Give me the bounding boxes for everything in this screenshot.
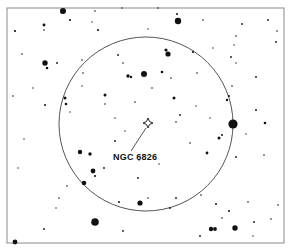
star [82, 72, 84, 74]
star [209, 117, 210, 118]
star [235, 35, 237, 37]
star [226, 99, 228, 101]
star [43, 29, 45, 31]
star [21, 53, 23, 55]
star [126, 74, 129, 77]
star [233, 44, 234, 45]
star [209, 227, 213, 231]
star [64, 97, 67, 100]
star [263, 154, 265, 156]
star [43, 24, 46, 27]
star [13, 240, 18, 245]
star [175, 121, 177, 123]
star [91, 218, 99, 226]
star [170, 77, 172, 79]
star [91, 169, 96, 174]
star [151, 87, 153, 89]
star [241, 23, 243, 25]
star [121, 7, 122, 8]
star [97, 29, 99, 31]
star [94, 175, 96, 177]
star [215, 203, 217, 205]
star [264, 122, 267, 125]
star [134, 101, 136, 103]
star [88, 152, 91, 155]
star [175, 18, 181, 24]
star [232, 225, 237, 230]
object-label-ngc6826: NGC 6826 [113, 153, 157, 162]
star [130, 76, 132, 78]
star [117, 54, 119, 56]
star [165, 51, 170, 56]
star [81, 59, 83, 61]
star [192, 51, 194, 53]
star [147, 197, 149, 199]
star [157, 7, 159, 9]
star [267, 19, 269, 21]
star [173, 97, 176, 100]
star [91, 21, 92, 22]
star [23, 138, 24, 139]
star [255, 76, 257, 78]
star [228, 95, 230, 97]
star [252, 235, 253, 236]
star [231, 85, 233, 87]
star [94, 10, 96, 12]
star [164, 48, 167, 51]
star [200, 194, 202, 196]
star [199, 235, 201, 237]
star [175, 197, 177, 199]
star [137, 200, 142, 205]
star [58, 197, 60, 199]
star [275, 41, 277, 43]
star [270, 218, 272, 220]
star [176, 13, 178, 15]
star [12, 95, 14, 97]
star [255, 109, 257, 111]
star [196, 72, 198, 74]
star [14, 30, 16, 32]
star [247, 201, 249, 203]
star [235, 156, 237, 158]
star [66, 185, 68, 187]
star [104, 94, 107, 97]
star [104, 103, 106, 105]
star [253, 221, 255, 223]
star [276, 30, 278, 32]
star [124, 130, 125, 131]
star [221, 217, 223, 219]
star [202, 19, 204, 21]
star [65, 103, 68, 106]
star [161, 71, 164, 74]
sky-canvas [0, 0, 291, 251]
star [195, 105, 196, 106]
star [277, 204, 279, 206]
star [235, 62, 236, 63]
star [32, 87, 33, 88]
star [103, 167, 105, 169]
star [137, 177, 139, 179]
star [56, 62, 58, 64]
star [230, 56, 232, 58]
star [122, 230, 124, 232]
star [218, 137, 221, 140]
star [158, 163, 159, 164]
star [212, 47, 213, 48]
star [69, 19, 71, 21]
star [221, 134, 223, 136]
star [213, 227, 217, 231]
star [141, 71, 147, 77]
star [228, 210, 230, 212]
star [169, 207, 171, 209]
star [114, 140, 116, 142]
star [114, 117, 115, 118]
star [245, 133, 246, 134]
star [189, 142, 191, 144]
star-chart-figure: NGC 6826 [0, 0, 291, 251]
star [78, 150, 82, 154]
star [17, 167, 18, 168]
star [43, 228, 45, 230]
star [69, 111, 70, 112]
star [206, 152, 209, 155]
star [60, 8, 66, 14]
